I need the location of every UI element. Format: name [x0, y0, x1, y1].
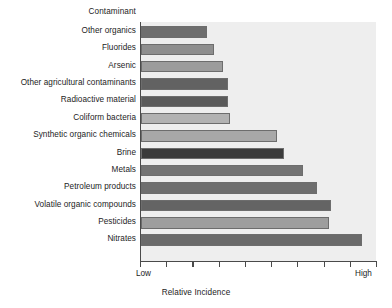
bar: [141, 234, 362, 245]
bar: [141, 148, 284, 159]
bar-row: Other organics: [0, 24, 392, 41]
bar: [141, 61, 223, 72]
bar-category-label: Other agricultural contaminants: [0, 78, 136, 87]
x-axis-tick: [376, 262, 377, 267]
bar: [141, 44, 214, 55]
bar-row: Arsenic: [0, 58, 392, 75]
bar-row: Brine: [0, 145, 392, 162]
x-axis-tick: [192, 262, 193, 267]
bar-category-label: Radioactive material: [0, 95, 136, 104]
bar-category-label: Synthetic organic chemicals: [0, 130, 136, 139]
bar-row: Other agricultural contaminants: [0, 76, 392, 93]
bar-category-label: Coliform bacteria: [0, 113, 136, 122]
bar-row: Pesticides: [0, 214, 392, 231]
bar: [141, 113, 230, 124]
bar-category-label: Other organics: [0, 26, 136, 35]
bar-row: Fluorides: [0, 41, 392, 58]
bar: [141, 217, 329, 228]
bar: [141, 182, 317, 193]
bar: [141, 130, 277, 141]
bar-category-label: Metals: [0, 165, 136, 174]
x-axis-tick: [271, 262, 272, 267]
bar-row: Metals: [0, 162, 392, 179]
relative-incidence-bar-chart: Contaminant Other organicsFluoridesArsen…: [0, 0, 392, 308]
bar: [141, 200, 331, 211]
x-axis-tick: [219, 262, 220, 267]
bar-category-label: Pesticides: [0, 217, 136, 226]
x-axis-tick: [297, 262, 298, 267]
x-axis-tick: [350, 262, 351, 267]
x-axis-tick: [166, 262, 167, 267]
bar: [141, 78, 228, 89]
x-axis-title: Relative Incidence: [0, 288, 392, 297]
bar-category-label: Fluorides: [0, 43, 136, 52]
bar-row: Nitrates: [0, 232, 392, 249]
bar-row: Coliform bacteria: [0, 110, 392, 127]
bar-row: Petroleum products: [0, 180, 392, 197]
bar-row: Volatile organic compounds: [0, 197, 392, 214]
x-axis-tick: [245, 262, 246, 267]
bar-row: Synthetic organic chemicals: [0, 128, 392, 145]
bar-category-label: Petroleum products: [0, 182, 136, 191]
x-axis-high-label: High: [355, 269, 372, 278]
bar: [141, 26, 207, 37]
x-axis-line: [140, 261, 377, 262]
bar-row: Radioactive material: [0, 93, 392, 110]
bar-category-label: Volatile organic compounds: [0, 200, 136, 209]
bar-category-label: Arsenic: [0, 61, 136, 70]
bar: [141, 96, 228, 107]
bar-category-label: Brine: [0, 148, 136, 157]
bar: [141, 165, 303, 176]
x-axis-tick: [324, 262, 325, 267]
y-axis-title: Contaminant: [0, 7, 136, 16]
bar-category-label: Nitrates: [0, 234, 136, 243]
x-axis-low-label: Low: [136, 269, 151, 278]
x-axis-tick: [140, 262, 141, 267]
